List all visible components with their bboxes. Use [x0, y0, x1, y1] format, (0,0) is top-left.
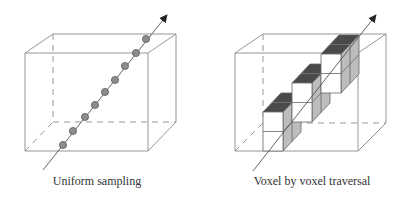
voxel-traversal-panel: Voxel by voxel traversal	[235, 15, 386, 188]
sample-point	[142, 35, 149, 42]
sample-point	[69, 127, 76, 134]
sample-point	[132, 49, 139, 56]
depth-edge	[358, 34, 386, 53]
sample-points	[59, 35, 149, 148]
sample-point	[121, 62, 128, 69]
sample-point	[111, 76, 118, 83]
hidden-edge	[25, 122, 53, 151]
ray-sampling-diagram: Uniform sampling Voxel by voxel traversa…	[0, 0, 405, 200]
depth-edge	[148, 122, 176, 151]
depth-edge	[148, 34, 176, 53]
uniform-sampling-panel: Uniform sampling	[25, 15, 176, 188]
caption-voxel-traversal: Voxel by voxel traversal	[254, 174, 371, 188]
sample-point	[81, 113, 88, 120]
depth-edge	[358, 123, 386, 151]
depth-edge	[235, 34, 263, 53]
depth-edge	[25, 34, 53, 53]
caption-uniform-sampling: Uniform sampling	[53, 174, 141, 188]
sample-point	[101, 88, 108, 95]
hidden-edge	[235, 123, 263, 151]
sample-point	[59, 141, 66, 148]
bounding-volume-box	[25, 34, 176, 151]
traversed-voxels	[263, 35, 359, 151]
sample-point	[91, 101, 98, 108]
